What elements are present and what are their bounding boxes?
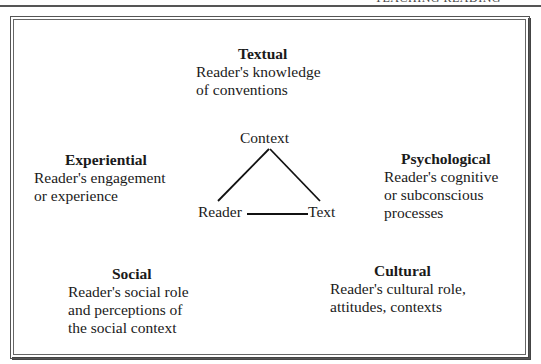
line-context-reader [218, 149, 269, 201]
triangle-lines [0, 0, 541, 364]
line-context-text [270, 149, 320, 201]
